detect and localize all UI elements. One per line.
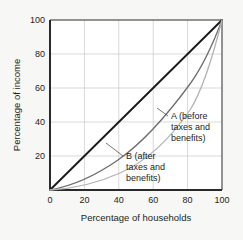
- annotation-label-a: A (before taxes and benefits): [171, 111, 210, 143]
- y-tick-label-80: 80: [35, 49, 45, 59]
- label-b-line-2: taxes and: [126, 162, 165, 172]
- x-tick-label-100: 100: [214, 195, 229, 205]
- x-tick-label-60: 60: [148, 195, 158, 205]
- x-tick-label-0: 0: [47, 195, 52, 205]
- lorenz-curve-chart: 100 80 60 40 20 0 20 40 60 80 100 Percen…: [0, 0, 243, 240]
- label-b-line-3: benefits): [126, 173, 161, 183]
- y-tick-label-20: 20: [35, 151, 45, 161]
- label-b-line-1: B (after: [126, 151, 156, 161]
- x-tick-label-40: 40: [114, 195, 124, 205]
- label-a-line-3: benefits): [171, 133, 206, 143]
- y-axis-title: Percentage of income: [11, 59, 22, 151]
- y-tick-label-100: 100: [30, 15, 45, 25]
- label-a-line-1: A (before: [171, 111, 208, 121]
- label-a-line-2: taxes and: [171, 122, 210, 132]
- x-tick-label-80: 80: [183, 195, 193, 205]
- x-axis-title: Percentage of households: [81, 212, 192, 223]
- y-tick-label-40: 40: [35, 117, 45, 127]
- y-tick-label-60: 60: [35, 83, 45, 93]
- x-tick-label-20: 20: [79, 195, 89, 205]
